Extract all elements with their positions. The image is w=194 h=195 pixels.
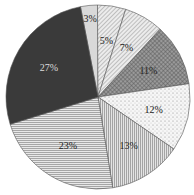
slice-label: 3%: [84, 13, 97, 24]
slice-label: 13%: [119, 140, 137, 151]
pie-chart: 3%5%7%11%12%13%23%27%: [0, 0, 194, 195]
pie-slices: [6, 5, 190, 189]
slice-label: 23%: [59, 140, 77, 151]
slice-label: 7%: [120, 42, 133, 53]
slice-label: 27%: [40, 62, 58, 73]
slice-label: 12%: [144, 104, 162, 115]
slice-label: 11%: [139, 65, 157, 76]
slice-label: 5%: [100, 35, 113, 46]
